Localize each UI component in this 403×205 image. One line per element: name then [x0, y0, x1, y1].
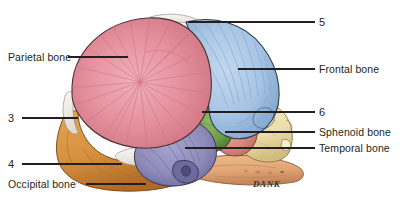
fetal-skull-figure: DANK Parietal bone 3 4 Occipital bone 5 … [0, 0, 403, 205]
label-sphenoid-bone: Sphenoid bone [319, 127, 391, 138]
label-temporal-bone: Temporal bone [319, 143, 390, 154]
skull-illustration: DANK [0, 0, 403, 205]
label-callout-3: 3 [8, 113, 14, 124]
label-frontal-bone: Frontal bone [319, 64, 379, 75]
artist-signature: DANK [252, 179, 281, 189]
label-occipital-bone: Occipital bone [8, 179, 76, 190]
label-callout-4: 4 [8, 159, 14, 170]
label-callout-6: 6 [319, 107, 325, 118]
label-parietal-bone: Parietal bone [8, 52, 71, 63]
label-callout-5: 5 [319, 17, 325, 28]
